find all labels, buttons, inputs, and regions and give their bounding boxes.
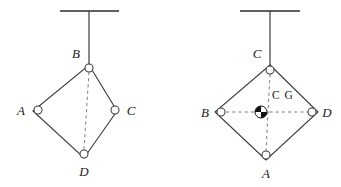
joint-d-circle[interactable] — [80, 150, 88, 158]
joint-b-circle[interactable] — [85, 64, 93, 72]
left-diamond-outline — [33, 65, 117, 158]
joint-b-label: B — [201, 105, 209, 120]
dash-b-to-d — [84, 72, 89, 150]
joint-c-label: C — [253, 46, 262, 61]
joint-d-label: D — [321, 105, 332, 120]
center-of-gravity-label: C G — [272, 89, 294, 101]
right-ceiling-support — [240, 11, 300, 65]
joint-a-label: A — [16, 103, 25, 118]
center-of-gravity-marker — [255, 106, 267, 118]
joint-d-circle[interactable] — [308, 108, 316, 116]
joint-a-circle[interactable] — [34, 106, 42, 114]
left-ceiling-support — [60, 11, 119, 65]
left-joints — [34, 64, 119, 158]
linkage-diagram-svg: B A C D — [0, 0, 341, 187]
joint-b-circle[interactable] — [217, 108, 225, 116]
joint-c-circle[interactable] — [266, 66, 274, 74]
joint-a-label: A — [261, 166, 270, 181]
right-linkage: C B D A C G — [201, 11, 332, 181]
joint-c-label: C — [127, 103, 136, 118]
joint-b-label: B — [72, 46, 80, 61]
joint-c-circle[interactable] — [111, 106, 119, 114]
figure-root: B A C D — [0, 0, 341, 187]
joint-a-circle[interactable] — [262, 151, 270, 159]
left-diamond-links — [33, 65, 117, 158]
left-linkage: B A C D — [16, 11, 136, 179]
joint-d-label: D — [78, 164, 89, 179]
left-dashed-guides — [84, 72, 89, 150]
